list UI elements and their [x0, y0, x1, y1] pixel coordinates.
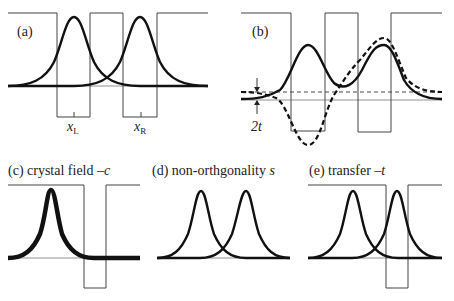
panel-e: (e) transfer –t	[308, 163, 442, 288]
panel-b-gap-label: 2t	[251, 119, 263, 134]
panel-b: (b) 2t	[241, 13, 442, 145]
panel-a: (a) xL xR	[8, 13, 208, 136]
gap-arrowhead-bottom	[254, 100, 260, 105]
panel-a-right-orbital	[8, 17, 208, 86]
x-right-label: xR	[133, 119, 146, 136]
panel-e-potential	[308, 185, 442, 288]
panel-c: (c) crystal field –c	[8, 163, 140, 288]
panel-a-label: (a)	[17, 24, 33, 40]
gap-arrowhead-top	[254, 87, 260, 92]
x-left-label: xL	[66, 119, 79, 136]
panel-b-bonding-orbital	[241, 45, 442, 99]
diagram-canvas: (a) xL xR (b) 2t (c) crystal field –c (d…	[0, 0, 454, 301]
panel-d-right-orbital	[157, 191, 290, 258]
panel-b-asymmetric-potential	[241, 13, 442, 132]
panel-e-right-orbital	[308, 191, 442, 258]
panel-d-label: (d) non-orthgonality s	[152, 163, 275, 179]
panel-c-label: (c) crystal field –c	[8, 163, 111, 179]
panel-d: (d) non-orthgonality s	[152, 163, 290, 258]
panel-a-double-well-potential	[8, 13, 208, 117]
panel-e-label: (e) transfer –t	[309, 163, 386, 179]
panel-c-potential	[8, 185, 140, 288]
panel-c-orbital-squared	[8, 190, 140, 258]
panel-b-label: (b)	[252, 24, 269, 40]
panel-b-antibonding-orbital	[241, 38, 442, 145]
